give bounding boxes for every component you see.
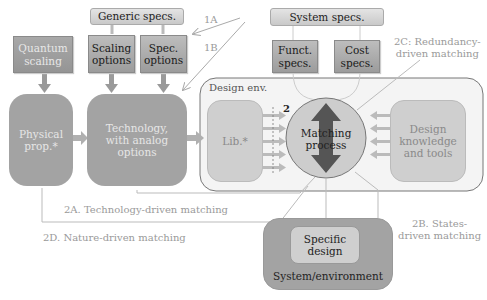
system-specs-box: System specs. bbox=[270, 8, 384, 26]
lib-box: Lib.* bbox=[207, 100, 263, 182]
physical-prop-line1: Physical bbox=[19, 128, 63, 140]
cost-specs-line2: specs. bbox=[341, 57, 374, 69]
physical-prop-line2: prop.* bbox=[19, 140, 63, 152]
system-specs-label: System specs. bbox=[289, 11, 364, 23]
design-knowledge-line2: knowledge bbox=[399, 135, 457, 147]
specific-design-line1: Specific bbox=[304, 233, 346, 245]
label-2c-line2: driven matching bbox=[394, 48, 481, 60]
lib-label: Lib.* bbox=[222, 135, 248, 147]
scaling-options-line2: options bbox=[92, 54, 132, 66]
label-2b-line1: 2B. States- bbox=[398, 218, 481, 230]
design-knowledge-box: Designknowledgeand tools bbox=[390, 100, 466, 182]
spec-options-line2: options bbox=[144, 54, 183, 66]
label-2c: 2C: Redundancy- driven matching bbox=[394, 36, 481, 59]
quantum-scaling-line1: Quantum bbox=[18, 42, 67, 54]
funct-specs-line2: specs. bbox=[278, 57, 312, 69]
design-knowledge-line1: Design bbox=[399, 123, 457, 135]
spec-options-line1: Spec. bbox=[144, 42, 183, 54]
funct-specs-box: Funct.specs. bbox=[272, 40, 318, 73]
label-2c-line1: 2C: Redundancy- bbox=[394, 36, 481, 48]
label-2: 2 bbox=[283, 103, 290, 114]
technology-box: Technology,with analogoptions bbox=[87, 94, 187, 186]
quantum-scaling-line2: scaling bbox=[18, 55, 67, 67]
label-2a: 2A. Technology-driven matching bbox=[64, 204, 228, 216]
matching-process-label: Matchingprocess bbox=[286, 124, 366, 154]
generic-specs-box: Generic specs. bbox=[90, 8, 184, 25]
label-1b: 1B bbox=[204, 42, 218, 54]
label-1a: 1A bbox=[204, 14, 218, 26]
system-environment-label: System/environment bbox=[263, 270, 393, 282]
generic-specs-label: Generic specs. bbox=[98, 10, 176, 22]
scaling-options-box: Scalingoptions bbox=[88, 35, 135, 73]
label-2b: 2B. States- driven matching bbox=[398, 218, 481, 241]
matching-process-line1: Matching bbox=[301, 127, 352, 139]
technology-line2: with analog bbox=[106, 134, 168, 146]
label-2d: 2D. Nature-driven matching bbox=[43, 232, 186, 244]
funct-specs-line1: Funct. bbox=[278, 44, 312, 56]
specific-design-line2: design bbox=[304, 245, 346, 257]
design-knowledge-line3: and tools bbox=[399, 147, 457, 159]
design-env-label: Design env. bbox=[209, 82, 267, 93]
scaling-options-line1: Scaling bbox=[92, 42, 132, 54]
cost-specs-line1: Cost bbox=[341, 44, 374, 56]
label-2b-line2: driven matching bbox=[398, 230, 481, 242]
technology-line3: options bbox=[106, 146, 168, 158]
specific-design-box: Specificdesign bbox=[290, 226, 360, 264]
cost-specs-box: Costspecs. bbox=[334, 40, 380, 73]
matching-process-line2: process bbox=[301, 139, 352, 151]
spec-options-box: Spec.options bbox=[140, 35, 187, 73]
technology-line1: Technology, bbox=[106, 122, 168, 134]
quantum-scaling-box: Quantumscaling bbox=[13, 36, 73, 73]
physical-prop-box: Physicalprop.* bbox=[9, 94, 73, 186]
